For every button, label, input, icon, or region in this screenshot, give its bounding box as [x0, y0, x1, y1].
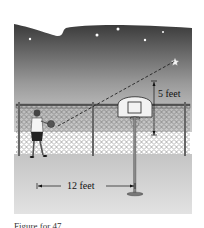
scene-drawing [14, 22, 192, 214]
figure-caption: Figure for 47 [14, 221, 62, 228]
distance-label: 12 feet [67, 180, 95, 191]
hoop-pole [134, 117, 137, 194]
ground [14, 154, 192, 214]
pole-base [127, 192, 143, 196]
height-label: 5 feet [158, 88, 181, 99]
illustration-figure: 5 feet 12 feet [14, 22, 192, 214]
basketball-icon [47, 120, 54, 127]
